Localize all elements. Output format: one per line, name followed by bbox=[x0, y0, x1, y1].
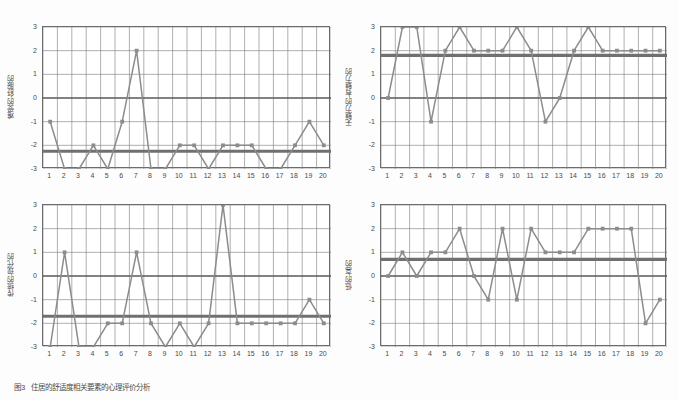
chart-4-canvas bbox=[381, 205, 667, 347]
chart-3-y-tick: -1 bbox=[23, 295, 37, 302]
chart-2-y-tick: 0 bbox=[361, 94, 375, 101]
chart-2-y-tick: -3 bbox=[361, 165, 375, 172]
chart-4-x-tick: 20 bbox=[651, 350, 667, 357]
chart-4-plot-area bbox=[380, 204, 666, 346]
chart-3-x-tick: 20 bbox=[315, 350, 331, 357]
chart-3-y-tick: 0 bbox=[23, 272, 37, 279]
chart-2-y-tick: 1 bbox=[361, 70, 375, 77]
chart-panel-2: 无魅力的-有魅力的 3210-1-2-312345678910111213141… bbox=[340, 12, 679, 187]
chart-1-x-tick: 20 bbox=[315, 172, 331, 179]
chart-1-y-tick: -2 bbox=[23, 141, 37, 148]
chart-4-y-tick: 2 bbox=[361, 224, 375, 231]
chart-3-y-tick: 3 bbox=[23, 201, 37, 208]
chart-2-y-tick: -1 bbox=[361, 117, 375, 124]
chart-2-y-tick: -2 bbox=[361, 141, 375, 148]
chart-3-y-tick: 1 bbox=[23, 248, 37, 255]
chart-3-y-tick: -2 bbox=[23, 319, 37, 326]
chart-4-y-tick: 3 bbox=[361, 201, 375, 208]
chart-2-canvas bbox=[381, 27, 667, 169]
figure-caption: 图3住居的舒适度相关要素的心理评价分析 bbox=[14, 381, 150, 392]
chart-1-plot-area bbox=[42, 26, 330, 168]
chart-1-y-tick: 0 bbox=[23, 94, 37, 101]
figure-page: 难受的-舒服的 3210-1-2-31234567891011121314151… bbox=[0, 0, 679, 400]
chart-1-y-axis-label: 难受的-舒服的 bbox=[6, 26, 16, 168]
chart-1-y-tick: 1 bbox=[23, 70, 37, 77]
figure-caption-text: 住居的舒适度相关要素的心理评价分析 bbox=[31, 383, 150, 392]
chart-3-y-axis-label: 传统的-现代的 bbox=[6, 204, 16, 346]
chart-2-plot-area bbox=[380, 26, 666, 168]
chart-1-y-tick: 3 bbox=[23, 23, 37, 30]
chart-1-canvas bbox=[43, 27, 331, 169]
chart-1-y-tick: 2 bbox=[23, 46, 37, 53]
chart-4-y-tick: -2 bbox=[361, 319, 375, 326]
chart-2-x-tick: 20 bbox=[651, 172, 667, 179]
figure-caption-number: 图3 bbox=[14, 383, 25, 392]
chart-3-plot-area bbox=[42, 204, 330, 346]
chart-3-y-tick: -3 bbox=[23, 343, 37, 350]
chart-1-y-tick: -3 bbox=[23, 165, 37, 172]
chart-panel-4: 低的-高的 3210-1-2-3123456789101112131415161… bbox=[340, 190, 679, 365]
chart-2-y-tick: 3 bbox=[361, 23, 375, 30]
chart-3-canvas bbox=[43, 205, 331, 347]
chart-panel-1: 难受的-舒服的 3210-1-2-31234567891011121314151… bbox=[0, 12, 340, 187]
chart-4-y-tick: 0 bbox=[361, 272, 375, 279]
chart-2-y-axis-label: 无魅力的-有魅力的 bbox=[344, 26, 354, 168]
chart-4-y-axis-label: 低的-高的 bbox=[344, 204, 354, 346]
chart-3-y-tick: 2 bbox=[23, 224, 37, 231]
chart-2-y-tick: 2 bbox=[361, 46, 375, 53]
chart-1-y-tick: -1 bbox=[23, 117, 37, 124]
chart-panel-3: 传统的-现代的 3210-1-2-31234567891011121314151… bbox=[0, 190, 340, 365]
chart-4-y-tick: -3 bbox=[361, 343, 375, 350]
chart-4-y-tick: -1 bbox=[361, 295, 375, 302]
chart-4-y-tick: 1 bbox=[361, 248, 375, 255]
